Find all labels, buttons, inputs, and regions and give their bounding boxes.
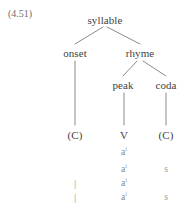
segment-cell-peak: ai — [121, 192, 127, 202]
segment-cell-onset: | — [74, 178, 76, 188]
segment-grid: aiais|ai|ais — [0, 0, 194, 206]
segment-superscript: i — [125, 190, 127, 197]
segment-superscript: i — [125, 176, 127, 183]
segment-cell-peak: ai — [121, 164, 127, 174]
segment-cell-coda: s — [164, 164, 168, 174]
segment-cell-peak: ai — [121, 147, 127, 157]
segment-cell-coda: s — [164, 192, 168, 202]
diagram-canvas: (4.51) syllable onset rhyme peak coda (C… — [0, 0, 194, 206]
segment-superscript: i — [125, 145, 127, 152]
segment-cell-onset: | — [74, 192, 76, 202]
segment-cell-peak: ai — [121, 178, 127, 188]
segment-superscript: i — [125, 162, 127, 169]
